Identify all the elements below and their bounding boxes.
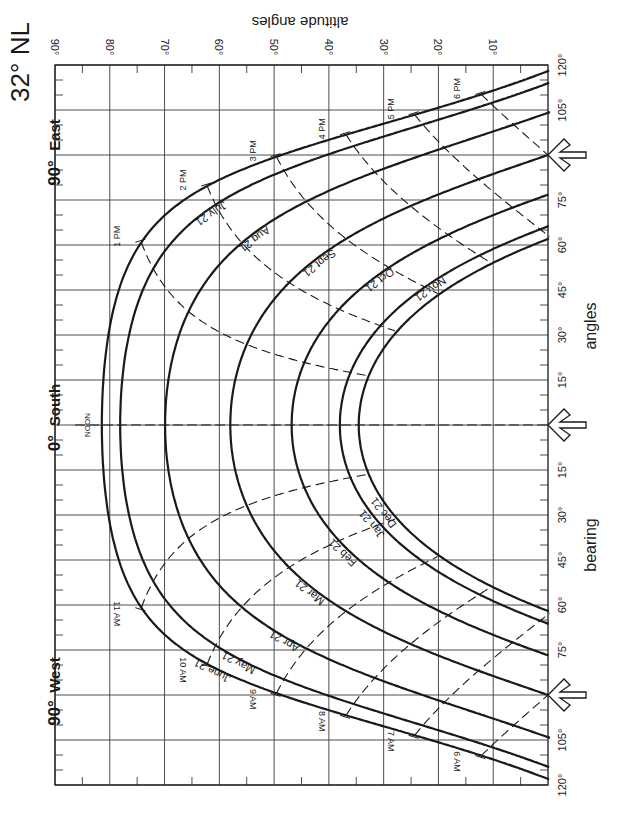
bearing-tick-label: 45° [556, 552, 568, 569]
date-label: July 21 [194, 199, 229, 229]
hour-label: 2 PM [178, 169, 188, 190]
hour-label: 3 PM [248, 140, 258, 161]
altitude-tick-label: 70° [159, 39, 171, 56]
hour-label: 7 AM [386, 731, 396, 752]
arrow-icon [548, 409, 586, 441]
bearing-tick-label: 60° [556, 597, 568, 614]
hour-label: 5 PM [386, 98, 396, 119]
bearing-tick-label: 15° [556, 462, 568, 479]
bearing-tick-label: 45° [556, 282, 568, 299]
date-label: Sept 21 [301, 247, 338, 280]
altitude-tick-label: 20° [432, 39, 444, 56]
bearing-tick-label: 120° [556, 54, 568, 77]
altitude-tick-label: 90° [49, 39, 61, 56]
hour-label-noon: NOON [83, 413, 92, 437]
date-label: Apr 21 [267, 628, 301, 654]
hour-line [346, 135, 490, 263]
altitude-tick-label: 50° [268, 39, 280, 56]
altitude-tick-label: 30° [378, 39, 390, 56]
altitude-tick-label: 80° [104, 39, 116, 56]
bearing-tick-label: 120° [556, 774, 568, 797]
bearing-tick-label: 15° [556, 372, 568, 389]
hour-label: 1 PM [112, 226, 122, 247]
direction-degree: 0° [45, 435, 64, 451]
chart-axes: 90°80°70°60°50°40°30°20°10°120°105°75°60… [5, 14, 568, 797]
direction-label: South [46, 384, 63, 427]
direction-arrow-west [548, 679, 586, 711]
hour-label: 9 AM [248, 689, 258, 710]
arrow-icon [548, 139, 586, 171]
direction-label: East [46, 119, 63, 151]
direction-label: West [46, 657, 63, 693]
hour-label: 11 AM [112, 601, 122, 626]
bearing-tick-label: 105° [556, 729, 568, 752]
direction-degree: 90° [45, 700, 64, 726]
bearing-tick-label: 105° [556, 99, 568, 122]
date-label: Aug 21 [237, 224, 272, 255]
hour-label: 6 AM [452, 751, 462, 772]
hour-line [207, 186, 395, 331]
bearing-axis-title-angles: angles [582, 302, 599, 349]
date-label: Mar 21 [292, 577, 326, 608]
bearing-tick-label: 30° [556, 507, 568, 524]
sun-path-chart: 6 AM7 AM8 AM9 AM10 AM11 AMNOON1 PM2 PM3 … [0, 0, 622, 813]
altitude-tick-label: 10° [487, 39, 499, 56]
hour-line [141, 242, 366, 375]
hour-label: 10 AM [178, 657, 188, 683]
altitude-axis-title: altitude angles [252, 14, 349, 31]
bearing-tick-label: 75° [556, 192, 568, 209]
arrow-icon [548, 679, 586, 711]
bearing-tick-label: 60° [556, 237, 568, 254]
bearing-tick-label: 30° [556, 327, 568, 344]
direction-arrow-south [548, 409, 586, 441]
bearing-axis-title-bearing: bearing [582, 518, 599, 571]
hour-label: 8 AM [317, 711, 327, 732]
hour-line [346, 587, 490, 715]
altitude-tick-label: 40° [323, 39, 335, 56]
bearing-tick-label: 75° [556, 642, 568, 659]
altitude-tick-label: 60° [213, 39, 225, 56]
date-label: Feb 21 [326, 537, 359, 570]
hour-label: 6 PM [452, 78, 462, 99]
direction-markers: 90°West0°South90°Eastanglesbearing [45, 119, 599, 726]
direction-arrow-east [548, 139, 586, 171]
hour-label: 4 PM [317, 118, 327, 139]
latitude-title: 32° NL [5, 22, 35, 102]
direction-degree: 90° [45, 160, 64, 186]
